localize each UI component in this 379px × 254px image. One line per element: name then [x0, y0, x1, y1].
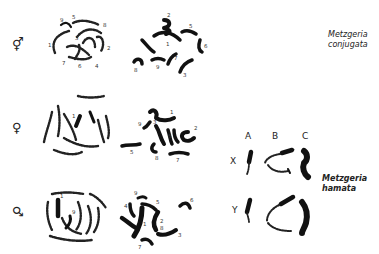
- chromosome-label: 8: [103, 22, 107, 28]
- chromosome-label: 1: [72, 113, 76, 119]
- chromosome-label: 1: [166, 41, 170, 47]
- species-epithet: conjugata: [328, 40, 368, 50]
- metaphase-spread-row1: 2 5 1 6 7 8 9 3 4: [130, 10, 210, 75]
- column-label-a: A: [245, 131, 251, 141]
- chromosome-label: 7: [174, 55, 178, 61]
- chromosome-label: 9: [156, 64, 160, 70]
- chromosome-label: 1: [143, 221, 147, 227]
- chromosome-label: 7: [138, 244, 142, 250]
- chromosome-label: 1: [60, 193, 64, 199]
- chromosome-label: 1: [48, 42, 52, 48]
- chromosome-label: 6: [168, 133, 172, 139]
- chromosome-label: 9: [72, 209, 76, 215]
- female-symbol-icon: ♀: [12, 121, 22, 134]
- x-chromosome-stage-b: [262, 147, 294, 177]
- chromosome-label: 2: [194, 125, 198, 131]
- chromosome-label: 6: [190, 197, 194, 203]
- y-chromosome-stage-a: [242, 198, 256, 224]
- chromosome-label: 3: [75, 35, 79, 41]
- x-chromosome-stage-c: [298, 148, 314, 180]
- chromosome-label: 4: [124, 203, 128, 209]
- species-label-hamata: Metzgeria hamata: [322, 174, 367, 194]
- chromosome-label: 6: [78, 63, 82, 69]
- species-genus: Metzgeria: [322, 174, 367, 184]
- chromosome-label: 3: [153, 119, 157, 125]
- chromosome-label: 3: [183, 72, 187, 78]
- column-label-b: B: [272, 131, 278, 141]
- species-genus: Metzgeria: [328, 30, 368, 40]
- y-chromosome-stage-c: [296, 199, 312, 235]
- metaphase-spread-row3: 9 5 6 4 1 2 8 3 7: [118, 190, 198, 252]
- row-label-x: X: [230, 156, 236, 166]
- chromosome-label: 9: [134, 190, 138, 196]
- species-label-conjugata: Metzgeria conjugata: [328, 30, 368, 50]
- prophase-spread-row3: 1 9: [42, 188, 117, 246]
- chromosome-label: 9: [60, 17, 64, 23]
- chromosome-label: 7: [62, 60, 66, 66]
- chromosome-label: 5: [189, 23, 193, 29]
- species-epithet: hamata: [322, 184, 367, 194]
- row-label-y: Y: [232, 205, 238, 215]
- chromosome-label: 2: [160, 218, 164, 224]
- chromosome-label: 8: [155, 155, 159, 161]
- male-symbol-icon: ♂: [12, 205, 24, 218]
- prophase-spread-row1: 9 5 8 3 1 2 7 6 4: [45, 15, 115, 70]
- y-chromosome-stage-b: [263, 195, 297, 235]
- chromosome-label: 3: [178, 232, 182, 238]
- chromosome-label: 2: [107, 45, 111, 51]
- chromosome-label: 5: [72, 14, 76, 20]
- chromosome-label: 9: [138, 121, 142, 127]
- chromosome-label: 6: [204, 43, 208, 49]
- chromosome-label: 7: [176, 157, 180, 163]
- chromosome-label: 8: [134, 67, 138, 73]
- chromosome-label: 4: [95, 63, 99, 69]
- chromosome-label: 1: [170, 109, 174, 115]
- hermaphrodite-symbol-icon: ⚥: [12, 38, 24, 51]
- chromosome-label: 8: [160, 225, 164, 231]
- x-chromosome-stage-a: [244, 150, 256, 176]
- prophase-spread-row2: 1: [40, 92, 115, 162]
- column-label-c: C: [302, 131, 308, 141]
- chromosome-label: 5: [156, 199, 160, 205]
- chromosome-label: 2: [167, 12, 171, 18]
- metaphase-spread-row2: 1 2 3 9 6 5 8 7 4: [118, 108, 198, 170]
- chromosome-label: 5: [130, 149, 134, 155]
